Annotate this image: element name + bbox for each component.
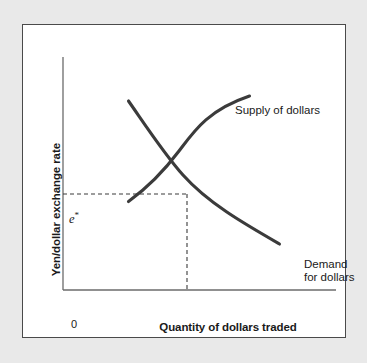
demand-curve-label-line1: Demand [304,258,355,271]
equilibrium-rate-superscript: * [75,210,80,220]
supply-of-dollars-curve [129,96,250,202]
x-axis-title: Quantity of dollars traded [103,321,353,334]
demand-curve-label-line2: for dollars [304,271,355,284]
supply-curve-label: Supply of dollars [235,104,320,117]
supply-demand-plot [23,25,345,337]
figure-card: Yen/dollar exchange rate Quantity of dol… [22,24,346,338]
equilibrium-rate-label: e* [69,210,79,227]
y-axis-title: Yen/dollar exchange rate [50,115,63,305]
demand-curve-label: Demand for dollars [304,258,355,284]
figure-root: Yen/dollar exchange rate Quantity of dol… [0,0,367,363]
origin-label: 0 [71,318,77,331]
